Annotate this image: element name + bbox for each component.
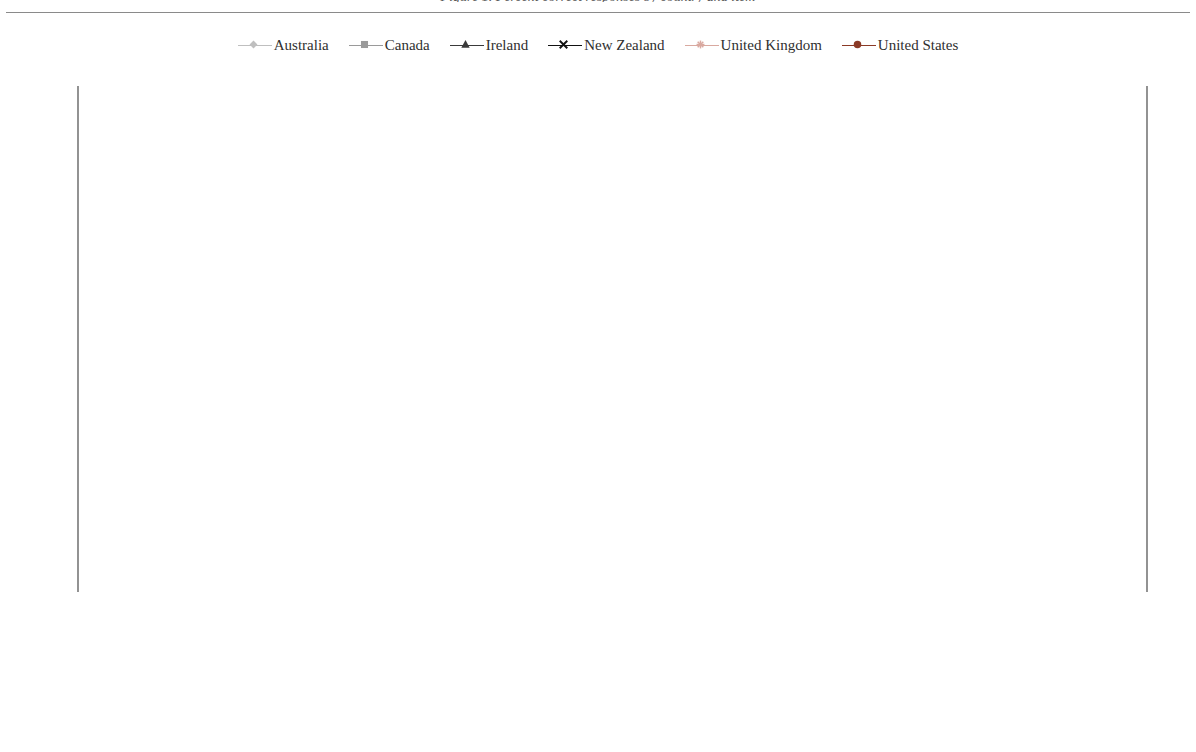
legend-label: Australia [274, 38, 329, 53]
legend-item-united-kingdom[interactable]: United Kingdom [685, 38, 822, 53]
legend-item-canada[interactable]: Canada [349, 38, 430, 53]
legend-marker-star-icon [685, 39, 719, 53]
legend-label: United Kingdom [721, 38, 822, 53]
legend-marker-x-icon [548, 39, 582, 53]
legend-marker-diamond-icon [238, 39, 272, 53]
legend-item-united-states[interactable]: United States [842, 38, 958, 53]
chart-canvas [0, 66, 1196, 752]
chart-page: Figure 1. Percent correct responses by c… [0, 0, 1196, 752]
legend-label: Canada [385, 38, 430, 53]
legend-label: Ireland [486, 38, 528, 53]
legend-marker-triangle-icon [450, 39, 484, 53]
legend-item-ireland[interactable]: Ireland [450, 38, 528, 53]
legend-label: United States [878, 38, 958, 53]
header-rule [6, 12, 1190, 13]
line-chart [0, 66, 1196, 752]
legend-label: New Zealand [584, 38, 664, 53]
chart-legend: AustraliaCanadaIrelandNew ZealandUnited … [0, 38, 1196, 53]
legend-marker-circle-icon [842, 39, 876, 53]
legend-item-new-zealand[interactable]: New Zealand [548, 38, 664, 53]
legend-marker-square-icon [349, 39, 383, 53]
legend-item-australia[interactable]: Australia [238, 38, 329, 53]
figure-caption: Figure 1. Percent correct responses by c… [0, 0, 1196, 2]
